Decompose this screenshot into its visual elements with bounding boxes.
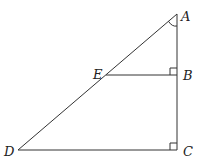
label-E: E [92, 67, 103, 82]
geometry-diagram: A B C D E [0, 0, 205, 165]
label-A: A [180, 9, 190, 24]
label-C: C [183, 144, 193, 159]
right-angle-mark-C [170, 143, 177, 150]
label-D: D [3, 144, 15, 159]
label-B: B [182, 68, 193, 83]
right-angle-mark-B [170, 68, 177, 75]
segment-AD [18, 14, 177, 150]
angle-mark-A [169, 21, 178, 26]
